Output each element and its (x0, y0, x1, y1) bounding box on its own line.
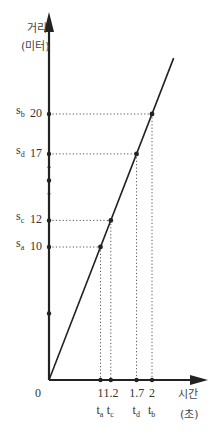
x-tick-label: 2 (149, 386, 155, 401)
x-symbol-label: ta (97, 403, 104, 419)
y-tick-label: 20 (30, 106, 42, 121)
distance-time-chart: 거리 (미터) 시간 (초) 0 sa101tasc121.2tcsd171.7… (0, 0, 217, 438)
y-axis-label-line1: 거리 (27, 19, 47, 35)
data-point (108, 218, 113, 223)
y-tick-dot (47, 311, 51, 315)
y-axis-label-line2: (미터) (21, 37, 50, 53)
x-tick-dot (109, 378, 113, 382)
x-symbol-label: tc (107, 403, 114, 419)
x-tick-label: 1.7 (129, 386, 144, 401)
y-tick-dot (47, 112, 51, 116)
y-symbol-label: sa (16, 236, 24, 252)
y-tick-label: 12 (30, 212, 42, 227)
x-tick-dot (134, 378, 138, 382)
x-symbol-label: td (133, 403, 140, 419)
data-point (134, 152, 139, 157)
data-point (98, 245, 103, 250)
y-symbol-label: sb (16, 103, 25, 119)
x-tick-label: 1 (97, 386, 103, 401)
y-tick-dot (47, 178, 51, 182)
x-tick-dot (150, 378, 154, 382)
y-tick-dot (48, 166, 51, 169)
x-axis-label-line1: 시간 (178, 385, 198, 401)
data-point (150, 112, 155, 117)
origin-label: 0 (35, 386, 41, 401)
y-tick-dot (47, 245, 51, 249)
y-tick-dot (47, 152, 51, 156)
x-tick-dot (98, 378, 102, 382)
y-tick-label: 10 (30, 239, 42, 254)
x-axis-arrow-icon (190, 375, 208, 385)
y-tick-dot (47, 218, 51, 222)
y-tick-dot (48, 192, 51, 195)
y-symbol-label: sd (16, 143, 25, 159)
x-axis-label-line2: (초) (180, 405, 199, 421)
y-tick-label: 17 (30, 146, 42, 161)
y-symbol-label: sc (16, 209, 24, 225)
x-tick-label: 1.2 (104, 386, 119, 401)
x-symbol-label: tb (148, 403, 155, 419)
